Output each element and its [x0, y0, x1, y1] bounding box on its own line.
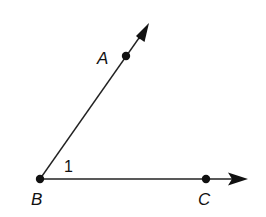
angle-label: 1 — [64, 158, 73, 175]
label-a: A — [96, 49, 108, 68]
point-b — [36, 175, 44, 183]
angle-diagram: A B C 1 — [0, 0, 266, 217]
point-a — [122, 52, 130, 60]
label-c: C — [198, 190, 211, 209]
ray-ba — [40, 23, 149, 179]
point-c — [202, 175, 210, 183]
label-b: B — [31, 190, 42, 209]
